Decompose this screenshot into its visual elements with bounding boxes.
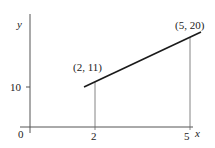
- origin-label: 0: [18, 128, 24, 140]
- line-chart: y x 10 0 2 5 (2, 11) (5, 20): [0, 0, 215, 148]
- point-label-b: (5, 20): [175, 19, 205, 32]
- data-segment: [84, 32, 201, 87]
- x-axis-label: x: [194, 127, 200, 139]
- xtick-label-2: 2: [91, 130, 97, 142]
- point-label-a: (2, 11): [73, 61, 102, 74]
- xtick-label-5: 5: [184, 130, 190, 142]
- ytick-label-10: 10: [10, 81, 22, 93]
- y-axis-label: y: [16, 18, 22, 30]
